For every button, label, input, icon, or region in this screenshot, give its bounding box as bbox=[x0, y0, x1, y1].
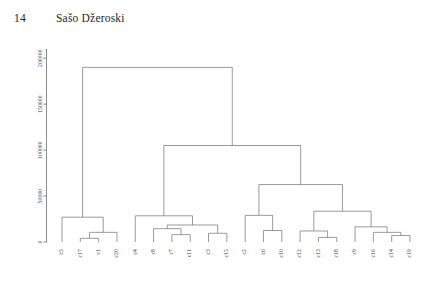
leaf-label-c16: c16 bbox=[370, 249, 376, 258]
dendrogram-link bbox=[154, 229, 181, 242]
leaf-label-c12: c12 bbox=[296, 249, 302, 258]
dendrogram-link bbox=[318, 237, 336, 242]
dendrogram-link bbox=[392, 236, 410, 242]
leaf-label-c11: c11 bbox=[186, 249, 192, 257]
leaf-label-c18: c18 bbox=[333, 249, 339, 258]
dendrogram-link bbox=[314, 211, 371, 231]
leaf-label-c6: c6 bbox=[260, 249, 266, 255]
dendrogram-link bbox=[164, 146, 301, 216]
dendrogram-link bbox=[263, 231, 281, 242]
y-axis-tick-label: 50000 bbox=[37, 189, 43, 204]
leaf-labels: c5c17c1c20c4c8c7c11c3c15c2c6c10c12c13c18… bbox=[58, 249, 412, 258]
dendrogram-link bbox=[172, 235, 190, 242]
dendrogram-link bbox=[373, 232, 400, 242]
leaf-label-c2: c2 bbox=[241, 249, 247, 255]
y-axis-tick-label: 0 bbox=[37, 240, 43, 243]
dendrogram-link bbox=[355, 227, 387, 242]
leaf-label-c13: c13 bbox=[315, 249, 321, 258]
leaf-label-c4: c4 bbox=[132, 249, 138, 255]
dendrogram-link bbox=[300, 231, 327, 242]
y-axis-tick-label: 150000 bbox=[37, 95, 43, 113]
dendrogram-link bbox=[245, 215, 272, 242]
dendrogram-link bbox=[83, 67, 233, 217]
dendrogram-link bbox=[167, 225, 217, 233]
y-axis: 050000100000150000200000 bbox=[37, 49, 47, 243]
leaf-label-c17: c17 bbox=[77, 249, 83, 258]
dendrogram-link bbox=[89, 232, 116, 242]
leaf-label-c20: c20 bbox=[113, 249, 119, 258]
leaf-label-c7: c7 bbox=[168, 249, 174, 255]
dendrogram-link bbox=[259, 185, 343, 216]
dendrogram-figure: 050000100000150000200000 c5c17c1c20c4c8c… bbox=[0, 0, 436, 291]
leaf-label-c14: c14 bbox=[388, 249, 394, 258]
leaf-label-c5: c5 bbox=[58, 249, 64, 255]
dendrogram-link bbox=[80, 238, 98, 242]
leaf-label-c3: c3 bbox=[205, 249, 211, 255]
dendrogram-links bbox=[62, 67, 410, 242]
y-axis-tick-label: 100000 bbox=[37, 141, 43, 159]
y-axis-tick-label: 200000 bbox=[37, 49, 43, 67]
leaf-label-c10: c10 bbox=[278, 249, 284, 258]
leaf-label-c1: c1 bbox=[95, 249, 101, 255]
dendrogram-plot: 050000100000150000200000 c5c17c1c20c4c8c… bbox=[0, 0, 436, 291]
leaf-label-c19: c19 bbox=[406, 249, 412, 258]
dendrogram-link bbox=[209, 233, 227, 242]
leaf-label-c8: c8 bbox=[150, 249, 156, 255]
leaf-label-c9: c9 bbox=[351, 249, 357, 255]
leaf-label-c15: c15 bbox=[223, 249, 229, 258]
